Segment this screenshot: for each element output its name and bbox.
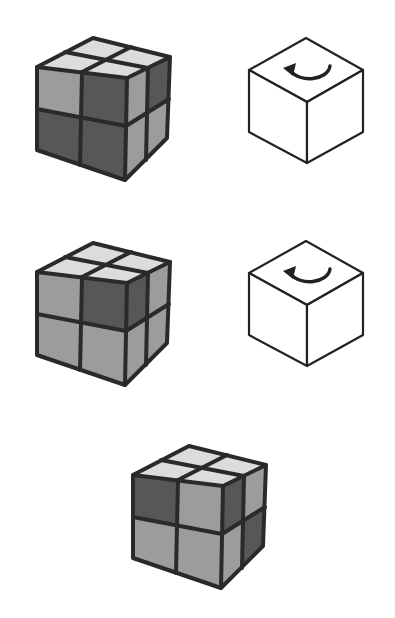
cube-result — [133, 446, 266, 588]
puzzle-diagram — [0, 0, 395, 618]
rotate-top-counterclockwise-icon — [249, 38, 363, 163]
rotate-top-counterclockwise-icon — [249, 241, 363, 366]
cube-state-2 — [37, 243, 170, 385]
cube-state-1 — [37, 38, 170, 180]
